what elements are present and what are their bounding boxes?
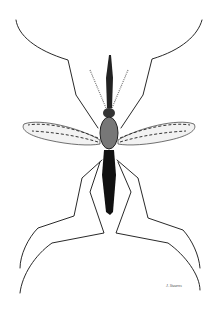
thorax <box>100 117 118 149</box>
mosquito-illustration <box>0 0 217 316</box>
antenna-right <box>112 70 128 108</box>
middle-leg-right <box>117 160 200 268</box>
middle-leg-left <box>20 160 102 268</box>
artist-signature: J. Stearns <box>166 283 182 288</box>
front-leg-right <box>121 20 202 128</box>
abdomen <box>102 150 116 215</box>
hind-leg-left <box>20 162 104 293</box>
front-leg-left <box>16 20 98 128</box>
proboscis <box>106 55 113 108</box>
antenna-left <box>90 70 106 108</box>
hind-leg-right <box>116 162 200 290</box>
